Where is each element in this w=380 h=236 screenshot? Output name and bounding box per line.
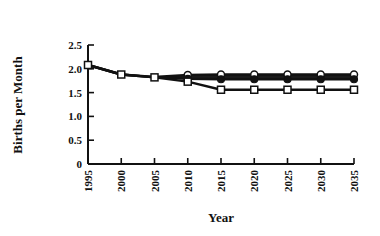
filled-circle-marker bbox=[284, 76, 291, 83]
square-marker bbox=[151, 74, 158, 81]
square-marker bbox=[184, 78, 191, 85]
square-marker bbox=[251, 86, 258, 93]
line-chart: 00.51.01.52.02.5 19952000200520102015202… bbox=[0, 0, 380, 236]
x-tick-label: 2020 bbox=[248, 170, 260, 193]
x-tick-label: 2010 bbox=[182, 170, 194, 193]
square-marker bbox=[317, 86, 324, 93]
square-marker bbox=[85, 61, 92, 68]
square-marker bbox=[218, 86, 225, 93]
y-axis-title: Births per Month bbox=[10, 56, 25, 154]
y-tick-label: 0.5 bbox=[68, 134, 82, 146]
x-axis-title: Year bbox=[208, 210, 234, 225]
filled-circle-marker bbox=[251, 76, 258, 83]
x-tick-label: 2000 bbox=[115, 170, 127, 193]
square-marker bbox=[351, 86, 358, 93]
x-tick-label: 2025 bbox=[282, 170, 294, 193]
x-tick-label: 2005 bbox=[149, 170, 161, 193]
x-tick-label: 2015 bbox=[215, 170, 227, 193]
x-tick-label: 1995 bbox=[82, 170, 94, 193]
filled-circle-marker bbox=[218, 76, 225, 83]
y-tick-label: 0 bbox=[77, 158, 83, 170]
x-tick-label: 2035 bbox=[348, 170, 360, 193]
filled-circle-marker bbox=[351, 76, 358, 83]
y-axis: 00.51.01.52.02.5 bbox=[68, 39, 94, 170]
series-layer bbox=[85, 61, 358, 93]
y-tick-label: 2.0 bbox=[68, 63, 82, 75]
y-tick-label: 1.0 bbox=[68, 110, 82, 122]
y-tick-label: 2.5 bbox=[68, 39, 82, 51]
x-axis: 199520002005201020152020202520302035 bbox=[82, 158, 360, 192]
filled-circle-marker bbox=[317, 76, 324, 83]
square-marker bbox=[284, 86, 291, 93]
square-marker bbox=[118, 71, 125, 78]
y-tick-label: 1.5 bbox=[68, 87, 82, 99]
x-tick-label: 2030 bbox=[315, 170, 327, 193]
